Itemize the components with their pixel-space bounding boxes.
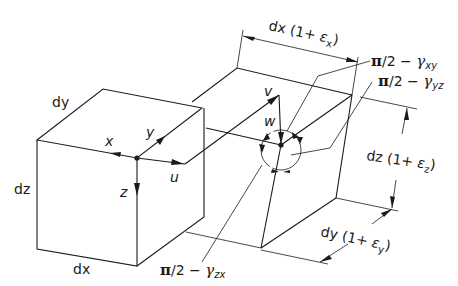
svg-text:dx (1+ εx): dx (1+ εx): [267, 17, 341, 50]
dz-extension-top: [360, 97, 417, 109]
dx-arrow-left-icon: [243, 36, 255, 41]
z-axis-label: z: [119, 184, 128, 200]
angle-arrow-icon: [259, 144, 265, 153]
v-label: v: [264, 83, 273, 99]
w-arrow-icon: [278, 132, 284, 144]
svg-text:dz (1+ εz): dz (1+ εz): [365, 147, 437, 175]
gamma-xy-label: π/2 − γxy: [371, 52, 438, 71]
dy-strain-label: dy (1+ εy): [319, 223, 393, 256]
dx-arrow-right-icon: [346, 57, 358, 62]
dx-extension-left: [237, 30, 243, 68]
undeformed-cube: [37, 89, 204, 266]
undeformed-front-face: [37, 140, 137, 266]
z-axis-arrow-icon: [134, 183, 140, 196]
deformed-top-front-right-edge: [281, 95, 352, 145]
gamma-xy-leader: [287, 61, 370, 131]
x-axis-arrow-icon: [110, 152, 121, 157]
dy-label: dy: [52, 94, 69, 110]
x-axis-label: x: [104, 133, 114, 149]
deformation-diagram: dy dz dx x y z u v w dx (1+ εx) dz (1+ ε…: [0, 0, 458, 286]
axes: [110, 95, 284, 196]
gamma-yz-label: π/2 − γyz: [378, 72, 444, 91]
svg-text:dy (1+ εy): dy (1+ εy): [319, 223, 393, 256]
angle-arrow-icon: [283, 170, 290, 173]
gamma-zx-label: π/2 − γzx: [160, 261, 225, 280]
dy-extension-bottom: [261, 250, 328, 264]
deformed-bottom-left-edge: [186, 232, 261, 248]
dx-strain-label: dx (1+ εx): [267, 17, 341, 50]
u-label: u: [170, 169, 179, 185]
dz-label: dz: [14, 181, 30, 197]
deformed-origin-point: [278, 142, 283, 147]
dy-arrow-bottom-icon: [320, 255, 332, 262]
dz-extension-bottom: [336, 198, 398, 211]
y-axis-arrow-icon: [156, 136, 165, 145]
deformed-top-front-left-edge: [206, 128, 281, 145]
dx-label: dx: [73, 261, 90, 277]
dz-strain-label: dz (1+ εz): [365, 147, 437, 175]
angle-arrow-icon: [297, 137, 303, 144]
u-arrow-icon: [171, 159, 184, 165]
deformed-right-vertical-edge: [336, 95, 352, 198]
gamma-zx-leader: [202, 165, 262, 262]
gamma-yz-leader: [291, 82, 372, 155]
y-axis-label: y: [145, 124, 155, 140]
dx-extension-right: [352, 57, 358, 95]
w-label: w: [264, 113, 276, 129]
v-displacement-line: [185, 95, 279, 164]
